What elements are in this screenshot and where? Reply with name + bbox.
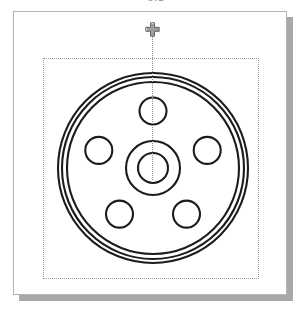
clipped-caption: 5.1 [136, 0, 176, 3]
move-handle-cross-icon[interactable] [145, 22, 160, 37]
vertical-centerline [152, 35, 153, 180]
drawing-panel[interactable] [13, 11, 287, 295]
cross-icon [145, 22, 160, 37]
screenshot-stage: 5.1 [0, 0, 303, 310]
selection-extents-rect[interactable] [43, 58, 259, 279]
